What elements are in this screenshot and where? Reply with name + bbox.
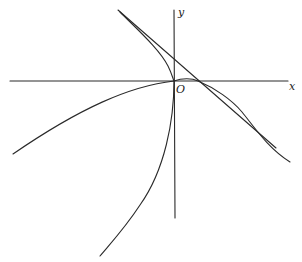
y-axis <box>174 10 175 218</box>
lower-branch <box>100 81 174 256</box>
origin-label: O <box>176 83 185 96</box>
left-branch <box>13 81 174 154</box>
x-axis-label: x <box>289 80 296 93</box>
y-axis-label: y <box>177 6 185 19</box>
curve-diagram: y x O <box>0 0 302 262</box>
tangent-line <box>118 10 276 148</box>
